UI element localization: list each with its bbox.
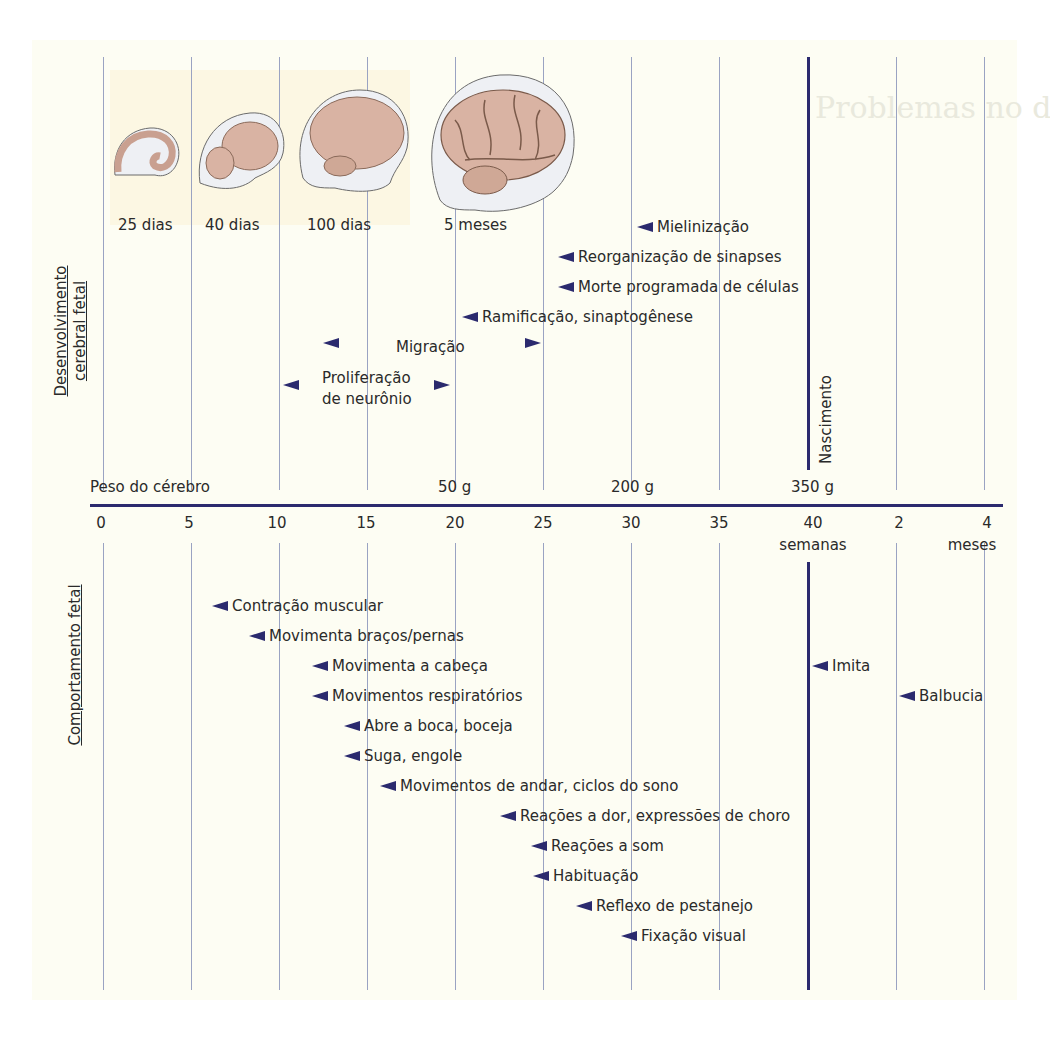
arrow-left-icon	[380, 781, 396, 791]
arrow-left-icon	[621, 931, 637, 941]
arrow-left-icon	[344, 721, 360, 731]
arrow-left-icon	[533, 871, 549, 881]
event-breathing-movements: Movimentos respiratórios	[312, 687, 522, 705]
brain-weight-350g: 350 g	[791, 478, 834, 496]
stage-label-100-days: 100 dias	[307, 216, 371, 234]
event-muscle-contraction: Contração muscular	[212, 597, 383, 615]
event-migration-end	[525, 338, 541, 348]
section-title-brain-development: Desenvolvimento cerebral fetal	[52, 236, 90, 426]
stage-label-25-days: 25 dias	[118, 216, 173, 234]
arrow-left-icon	[312, 691, 328, 701]
arrow-left-icon	[637, 222, 653, 232]
arrow-left-icon	[283, 380, 299, 390]
event-programmed-cell-death: Morte programada de células	[558, 278, 799, 296]
event-blink-reflex: Reflexo de pestanejo	[576, 897, 753, 915]
event-sound-reactions: Reações a som	[531, 837, 664, 855]
stage-label-5-months: 5 meses	[444, 216, 507, 234]
event-habituation: Habituação	[533, 867, 638, 885]
event-proliferation-end	[434, 380, 450, 390]
birth-label: Nascimento	[817, 375, 835, 464]
event-synapse-reorganization: Reorganização de sinapses	[558, 248, 781, 266]
arrow-left-icon	[812, 661, 828, 671]
brain-100-days-illustration	[295, 88, 415, 198]
brain-weight-50g: 50 g	[438, 478, 471, 496]
arrow-left-icon	[344, 751, 360, 761]
arrow-right-icon	[434, 380, 450, 390]
event-moves-head: Movimenta a cabeça	[312, 657, 488, 675]
brain-weight-200g: 200 g	[611, 478, 654, 496]
event-migration-label: Migração	[396, 338, 465, 356]
event-proliferation-start	[283, 380, 303, 390]
arrow-left-icon	[462, 312, 478, 322]
arrow-left-icon	[558, 282, 574, 292]
event-babbles: Balbucia	[899, 687, 983, 705]
event-proliferation-label: Proliferação de neurônio	[322, 368, 412, 410]
arrow-left-icon	[249, 631, 265, 641]
event-moves-limbs: Movimenta braços/pernas	[249, 627, 464, 645]
arrow-left-icon	[899, 691, 915, 701]
event-branching-synaptogenesis: Ramificação, sinaptogênese	[462, 308, 693, 326]
unit-months: meses	[948, 536, 997, 554]
arrow-left-icon	[312, 661, 328, 671]
arrow-left-icon	[212, 601, 228, 611]
brain-25-days-illustration	[110, 120, 185, 180]
ghost-heading: Problemas no desenvolvimento	[815, 90, 1050, 125]
arrow-left-icon	[576, 901, 592, 911]
event-myelination: Mielinização	[637, 218, 749, 236]
event-imitates: Imita	[812, 657, 870, 675]
birth-line-bottom	[807, 562, 810, 990]
event-sucks-swallows: Suga, engole	[344, 747, 462, 765]
brain-weight-label: Peso do cérebro	[90, 478, 210, 496]
event-pain-crying: Reações a dor, expressões de choro	[500, 807, 790, 825]
event-walking-sleep-cycles: Movimentos de andar, ciclos do sono	[380, 777, 679, 795]
event-visual-fixation: Fixação visual	[621, 927, 746, 945]
birth-line-top	[807, 57, 810, 470]
arrow-right-icon	[525, 338, 541, 348]
event-opens-mouth-yawns: Abre a boca, boceja	[344, 717, 513, 735]
arrow-left-icon	[323, 338, 339, 348]
stage-label-40-days: 40 dias	[205, 216, 260, 234]
brain-5-months-illustration	[425, 70, 580, 220]
timeline-axis	[90, 504, 1003, 507]
arrow-left-icon	[558, 252, 574, 262]
brain-40-days-illustration	[195, 108, 290, 193]
unit-weeks: semanas	[779, 536, 846, 554]
event-migration-start	[323, 338, 343, 348]
arrow-left-icon	[500, 811, 516, 821]
arrow-left-icon	[531, 841, 547, 851]
section-title-fetal-behavior: Comportamento fetal	[66, 570, 85, 760]
